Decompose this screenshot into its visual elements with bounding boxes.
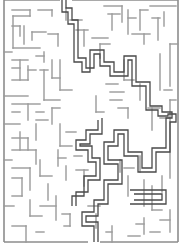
maze-canvas (0, 0, 186, 247)
maze-solution-path (62, 0, 176, 242)
maze-puzzle (0, 0, 186, 247)
solution-path-line (66, 0, 176, 242)
maze-walls (4, 6, 178, 242)
solution-path-line (130, 190, 166, 204)
solution-path-line (134, 194, 162, 200)
